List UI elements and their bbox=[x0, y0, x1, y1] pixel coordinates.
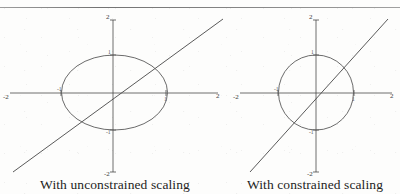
unit-circle-curve bbox=[62, 55, 168, 130]
y-axis-label-max: 2 bbox=[106, 13, 110, 21]
caption-unconstrained: With unconstrained scaling bbox=[0, 177, 230, 193]
plot-svg-constrained: -2 2 2 -2 1 -1 -1 1 bbox=[230, 0, 400, 166]
x-axis-label-max: 2 bbox=[216, 92, 220, 100]
x-axis-label-pos-one: 1 bbox=[352, 96, 355, 102]
y-axis-label-max: 2 bbox=[309, 13, 313, 21]
plot-svg-unconstrained: -2 2 2 -2 1 -1 -1 1 bbox=[0, 0, 230, 166]
x-axis-label-max: 2 bbox=[390, 92, 394, 100]
y-axis-label-neg-one: -1 bbox=[106, 129, 111, 135]
line-y-equals-x bbox=[250, 19, 388, 172]
plot-unconstrained: -2 2 2 -2 1 -1 -1 1 bbox=[0, 0, 230, 166]
x-axis-label-pos-one: 1 bbox=[164, 96, 167, 102]
y-axis-label-pos-one: 1 bbox=[108, 49, 111, 55]
plot-constrained: -2 2 2 -2 1 -1 -1 1 bbox=[230, 0, 400, 166]
x-axis-label-neg-one: -1 bbox=[274, 86, 279, 92]
figure-root: -2 2 2 -2 1 -1 -1 1 With unconstrained s… bbox=[0, 0, 400, 194]
line-y-equals-x bbox=[13, 19, 223, 172]
x-axis-label-neg-one: -1 bbox=[57, 86, 62, 92]
panel-constrained-scaling: -2 2 2 -2 1 -1 -1 1 With constrained sca… bbox=[230, 0, 400, 194]
x-axis-label-min: -2 bbox=[233, 93, 239, 101]
caption-constrained: With constrained scaling bbox=[230, 177, 400, 193]
y-axis-label-pos-one: 1 bbox=[311, 49, 314, 55]
x-axis-label-min: -2 bbox=[3, 93, 9, 101]
panel-unconstrained-scaling: -2 2 2 -2 1 -1 -1 1 With unconstrained s… bbox=[0, 0, 230, 194]
y-axis-label-neg-one: -1 bbox=[309, 129, 314, 135]
